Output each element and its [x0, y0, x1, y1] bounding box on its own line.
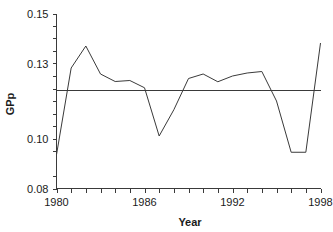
gpp-data-series	[57, 43, 321, 155]
x-tick-label: 1980	[44, 196, 68, 208]
x-axis-title: Year	[178, 216, 202, 228]
y-tick-label: 0.10	[27, 133, 48, 145]
plot-area: 0.150.130.100.08 1980198619921998	[27, 8, 333, 208]
line-chart: 0.150.130.100.08 1980198619921998 GPp Ye…	[0, 0, 333, 232]
x-axis-tick-labels: 1980198619921998	[44, 196, 332, 208]
y-tick-label: 0.08	[27, 183, 48, 195]
x-tick-label: 1992	[220, 196, 244, 208]
y-axis-title: GPp	[4, 92, 16, 115]
x-axis-ticks	[58, 189, 322, 193]
chart-container: 0.150.130.100.08 1980198619921998 GPp Ye…	[0, 0, 333, 232]
y-axis-ticks	[53, 15, 57, 190]
y-tick-label: 0.15	[27, 8, 48, 20]
y-axis-tick-labels: 0.150.130.100.08	[27, 8, 48, 195]
x-tick-label: 1998	[308, 196, 332, 208]
y-tick-label: 0.13	[27, 58, 48, 70]
x-tick-label: 1986	[132, 196, 156, 208]
